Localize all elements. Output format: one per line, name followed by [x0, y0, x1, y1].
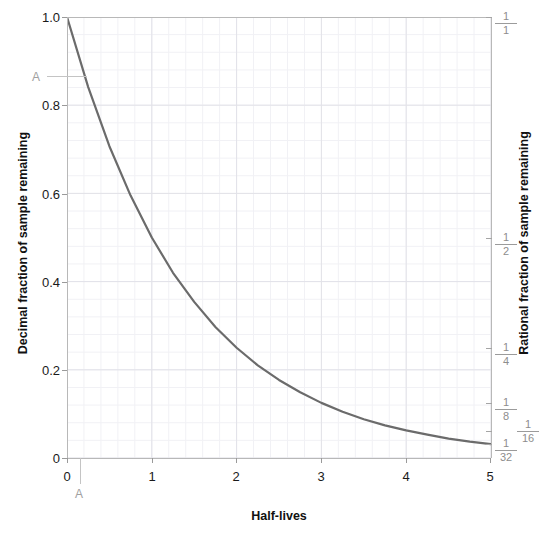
x-tickmark-2	[236, 458, 237, 463]
x-tickmark-3	[321, 458, 322, 463]
y-tick-label-0.2: 0.2	[26, 364, 60, 377]
y-tick-label-1.0: 1.0	[26, 11, 60, 24]
fraction-numerator: 1	[495, 11, 517, 24]
fraction-numerator: 1	[495, 232, 517, 245]
x-tick-label-4: 4	[391, 470, 421, 483]
fraction-numerator: 1	[495, 397, 517, 410]
annotation-x-label: A	[75, 487, 83, 501]
x-tickmark-5	[490, 458, 491, 463]
x-tick-label-0: 0	[52, 470, 82, 483]
y2-tickmark-1-1	[486, 17, 492, 18]
decay-curve-svg	[67, 17, 491, 458]
fraction-numerator: 1	[495, 438, 517, 451]
y2-tick-label-1-1: 1 1	[495, 11, 517, 36]
y2-tick-label-1-16: 1 16	[517, 419, 539, 444]
x-tick-label-5: 5	[475, 470, 505, 483]
x-tickmark-0	[67, 458, 68, 463]
y-tick-label-0: 0	[26, 452, 60, 465]
fraction-denominator: 8	[495, 410, 517, 422]
y-tickmark-0.4	[62, 282, 67, 283]
x-tickmark-4	[406, 458, 407, 463]
secondary-y-axis-title: Rational fraction of sample remaining	[517, 123, 531, 363]
y-tick-label-0.4: 0.4	[26, 276, 60, 289]
fraction-denominator: 16	[517, 432, 539, 444]
x-tick-label-3: 3	[306, 470, 336, 483]
x-axis-line	[67, 458, 491, 459]
fraction-denominator: 2	[495, 245, 517, 257]
y2-tickmark-1-16	[486, 431, 492, 432]
decay-curve-path	[67, 17, 491, 444]
x-tickmark-1	[152, 458, 153, 463]
y-tickmark-0.8	[62, 105, 67, 106]
y2-tickmark-1-4	[486, 348, 492, 349]
x-tick-label-2: 2	[221, 470, 251, 483]
x-axis-title: Half-lives	[67, 509, 491, 523]
y2-tickmark-1-32	[486, 444, 492, 445]
fraction-numerator: 1	[517, 419, 539, 432]
y-tick-label-0.8: 0.8	[26, 99, 60, 112]
fraction-numerator: 1	[495, 342, 517, 355]
y-tickmark-0.2	[62, 370, 67, 371]
annotation-y-label: A	[32, 70, 40, 84]
y2-tick-label-1-2: 1 2	[495, 232, 517, 257]
y-tickmark-0.6	[62, 194, 67, 195]
fraction-denominator: 1	[495, 24, 517, 36]
y2-tick-label-1-4: 1 4	[495, 342, 517, 367]
y-tickmark-1.0	[62, 17, 67, 18]
fraction-denominator: 4	[495, 355, 517, 367]
y2-tick-label-1-8: 1 8	[495, 397, 517, 422]
decay-chart-figure: 1.0 0.8 0.6 0.4 0.2 0 0 1 2 3 4 5 1 1 1 …	[0, 0, 547, 534]
y-axis-title: Decimal fraction of sample remaining	[16, 123, 30, 363]
annotation-y-leader-line	[47, 76, 87, 77]
plot-area	[67, 17, 491, 458]
plot-top-border	[67, 17, 491, 18]
x-tick-label-1: 1	[137, 470, 167, 483]
y-axis-line	[67, 17, 68, 458]
annotation-x-leader-line	[80, 458, 81, 484]
y2-tick-label-1-32: 1 32	[495, 438, 517, 463]
fraction-denominator: 32	[495, 451, 517, 463]
y2-tickmark-1-2	[486, 238, 492, 239]
y-tick-label-0.6: 0.6	[26, 188, 60, 201]
y2-tickmark-1-8	[486, 403, 492, 404]
